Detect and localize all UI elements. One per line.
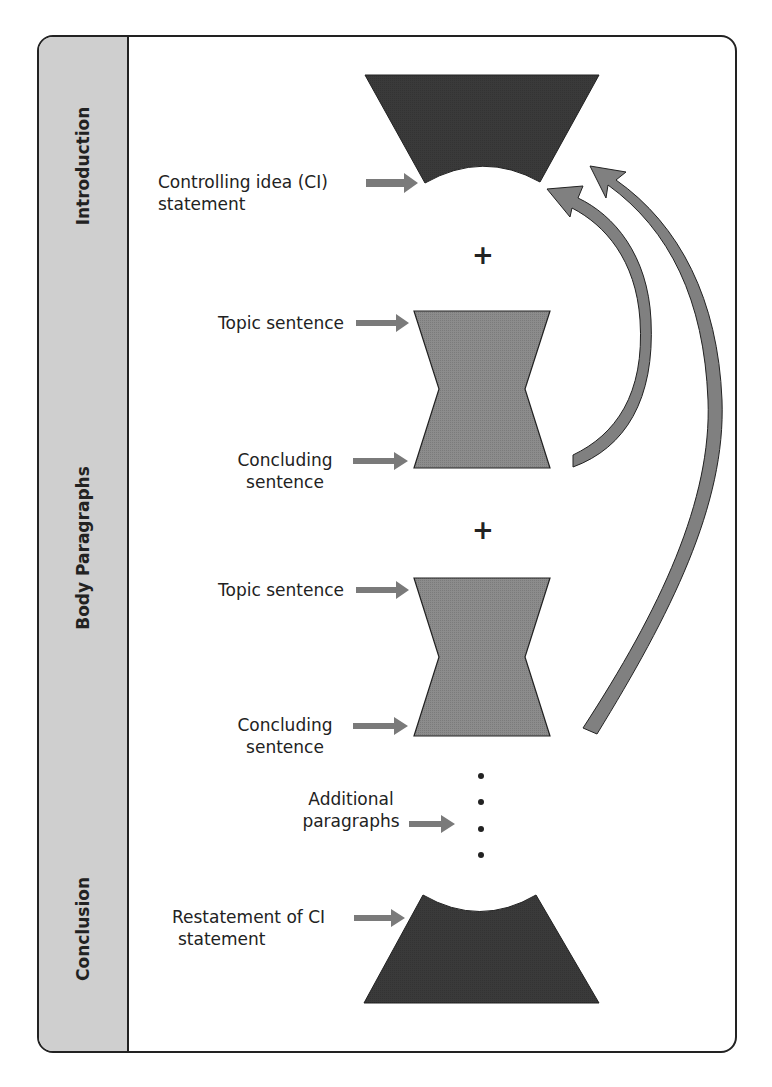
conclusion-funnel-shape (364, 895, 599, 1003)
diagram-shapes (0, 0, 772, 1087)
label-line: sentence (229, 736, 341, 758)
label-line: Concluding (229, 714, 341, 736)
label-concluding-sentence-2: Concluding sentence (229, 714, 341, 758)
body-paragraph-2-shape (414, 578, 550, 736)
label-topic-sentence-2: Topic sentence (218, 579, 344, 601)
arrow-right-icon (354, 909, 405, 927)
label-restatement-of-ci: Restatement of CI statement (172, 906, 325, 950)
plus-sign: + (472, 517, 494, 543)
label-additional-paragraphs: Additional paragraphs (298, 788, 404, 832)
ellipsis-dots (478, 773, 484, 858)
label-line: statement (158, 193, 328, 215)
intro-funnel-shape (365, 75, 599, 183)
label-line: Restatement of CI (172, 906, 325, 928)
label-topic-sentence-1: Topic sentence (218, 312, 344, 334)
label-line: sentence (229, 471, 341, 493)
arrow-right-icon (353, 452, 408, 470)
plus-sign: + (472, 242, 494, 268)
body-paragraph-1-shape (414, 311, 550, 468)
label-line: Additional (298, 788, 404, 810)
arrow-right-icon (356, 581, 409, 599)
label-controlling-idea: Controlling idea (CI) statement (158, 171, 328, 215)
arrow-right-icon (356, 314, 409, 332)
label-line: statement (172, 928, 325, 950)
arrow-right-icon (353, 717, 408, 735)
label-concluding-sentence-1: Concluding sentence (229, 449, 341, 493)
curved-arrow-body1-to-intro (547, 186, 651, 467)
label-line: Controlling idea (CI) (158, 171, 328, 193)
arrow-right-icon (409, 815, 455, 833)
label-line: paragraphs (298, 810, 404, 832)
label-line: Concluding (229, 449, 341, 471)
arrow-right-icon (366, 173, 418, 193)
